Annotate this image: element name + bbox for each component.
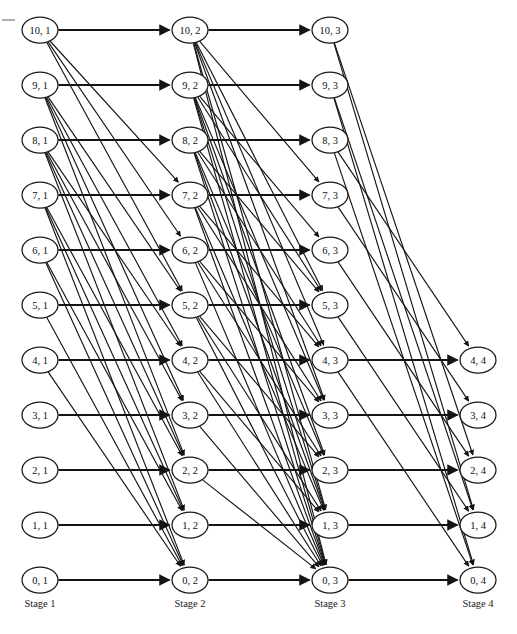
node-label: 0, 2 xyxy=(182,575,198,586)
node-label: 7, 3 xyxy=(322,190,338,201)
edge-s1n8-to-s2n3 xyxy=(47,153,182,401)
node-label: 2, 2 xyxy=(182,465,198,476)
node-s2n5[interactable]: 5, 2 xyxy=(172,292,208,318)
node-label: 7, 2 xyxy=(182,190,198,201)
node-label: 4, 1 xyxy=(32,355,48,366)
edge-s2n6-to-s3n3 xyxy=(200,261,319,401)
node-s1n10[interactable]: 10, 1 xyxy=(22,17,58,43)
node-label: 3, 2 xyxy=(182,410,198,421)
edge-s2n4-to-s3n1 xyxy=(200,371,319,511)
node-s3n10[interactable]: 10, 3 xyxy=(312,17,348,43)
node-s2n9[interactable]: 9, 2 xyxy=(172,72,208,98)
edge-s1n6-to-s2n1 xyxy=(47,263,182,511)
node-s3n1[interactable]: 1, 3 xyxy=(312,512,348,538)
node-s1n1[interactable]: 1, 1 xyxy=(22,512,58,538)
node-s1n9[interactable]: 9, 1 xyxy=(22,72,58,98)
node-s1n3[interactable]: 3, 1 xyxy=(22,402,58,428)
node-s2n4[interactable]: 4, 2 xyxy=(172,347,208,373)
node-s3n4[interactable]: 4, 3 xyxy=(312,347,348,373)
stage-label-2: Stage 2 xyxy=(174,598,205,609)
stage-label-4: Stage 4 xyxy=(462,598,494,609)
node-label: 5, 2 xyxy=(182,300,198,311)
node-label: 5, 3 xyxy=(322,300,338,311)
node-s3n6[interactable]: 6, 3 xyxy=(312,237,348,263)
edge-s3n10-to-s4n1 xyxy=(334,43,474,510)
edge-s3n8-to-s4n4 xyxy=(338,152,469,346)
node-s3n5[interactable]: 5, 3 xyxy=(312,292,348,318)
node-s1n8[interactable]: 8, 1 xyxy=(22,127,58,153)
node-label: 2, 4 xyxy=(470,465,487,476)
node-label: 5, 1 xyxy=(32,300,48,311)
node-s2n7[interactable]: 7, 2 xyxy=(172,182,208,208)
node-s2n0[interactable]: 0, 2 xyxy=(172,567,208,593)
stage-label-1: Stage 1 xyxy=(24,598,55,609)
node-label: 3, 4 xyxy=(470,410,487,421)
node-label: 1, 4 xyxy=(470,520,487,531)
node-s1n5[interactable]: 5, 1 xyxy=(22,292,58,318)
node-label: 10, 1 xyxy=(30,25,51,36)
node-s2n3[interactable]: 3, 2 xyxy=(172,402,208,428)
node-s3n7[interactable]: 7, 3 xyxy=(312,182,348,208)
node-label: 8, 3 xyxy=(322,135,338,146)
node-label: 4, 4 xyxy=(470,355,487,366)
node-label: 10, 2 xyxy=(180,25,201,36)
node-s4n0[interactable]: 0, 4 xyxy=(460,567,496,593)
edge-s2n3-to-s3n0 xyxy=(200,426,319,566)
node-label: 6, 1 xyxy=(32,245,48,256)
node-label: 6, 3 xyxy=(322,245,338,256)
node-label: 9, 3 xyxy=(322,80,338,91)
node-s1n7[interactable]: 7, 1 xyxy=(22,182,58,208)
node-s3n3[interactable]: 3, 3 xyxy=(312,402,348,428)
node-s4n2[interactable]: 2, 4 xyxy=(460,457,496,483)
stage-label-layer: Stage 1Stage 2Stage 3Stage 4 xyxy=(24,598,494,609)
node-label: 4, 3 xyxy=(322,355,338,366)
node-label: 3, 1 xyxy=(32,410,48,421)
node-s3n0[interactable]: 0, 3 xyxy=(312,567,348,593)
node-label: 9, 2 xyxy=(182,80,198,91)
node-s3n9[interactable]: 9, 3 xyxy=(312,72,348,98)
node-label: 0, 1 xyxy=(32,575,48,586)
edge-s1n7-to-s2n2 xyxy=(47,208,182,456)
node-s2n10[interactable]: 10, 2 xyxy=(172,17,208,43)
edge-s3n7-to-s4n3 xyxy=(338,207,469,401)
node-s3n2[interactable]: 2, 3 xyxy=(312,457,348,483)
trellis-diagram: 10, 19, 18, 17, 16, 15, 14, 13, 12, 11, … xyxy=(0,0,517,634)
node-label: 4, 2 xyxy=(182,355,198,366)
node-label: 10, 3 xyxy=(320,25,341,36)
edge-s2n5-to-s3n2 xyxy=(200,316,319,456)
node-s4n3[interactable]: 3, 4 xyxy=(460,402,496,428)
node-label: 9, 1 xyxy=(32,80,48,91)
node-s1n0[interactable]: 0, 1 xyxy=(22,567,58,593)
node-label: 2, 1 xyxy=(32,465,48,476)
node-s2n8[interactable]: 8, 2 xyxy=(172,127,208,153)
node-s4n4[interactable]: 4, 4 xyxy=(460,347,496,373)
node-s4n1[interactable]: 1, 4 xyxy=(460,512,496,538)
node-s1n4[interactable]: 4, 1 xyxy=(22,347,58,373)
node-s2n1[interactable]: 1, 2 xyxy=(172,512,208,538)
node-s2n6[interactable]: 6, 2 xyxy=(172,237,208,263)
node-label: 8, 2 xyxy=(182,135,198,146)
edge-s1n5-to-s2n0 xyxy=(47,318,182,566)
node-s2n2[interactable]: 2, 2 xyxy=(172,457,208,483)
node-label: 1, 1 xyxy=(32,520,48,531)
node-label: 1, 2 xyxy=(182,520,198,531)
node-label: 1, 3 xyxy=(322,520,338,531)
node-label: 0, 3 xyxy=(322,575,338,586)
node-label: 0, 4 xyxy=(470,575,487,586)
edge-s2n7-to-s3n4 xyxy=(200,206,319,346)
stage-label-3: Stage 3 xyxy=(314,598,345,609)
node-s1n6[interactable]: 6, 1 xyxy=(22,237,58,263)
node-s3n8[interactable]: 8, 3 xyxy=(312,127,348,153)
node-label: 6, 2 xyxy=(182,245,198,256)
edge-s3n9-to-s4n0 xyxy=(334,98,474,565)
node-label: 2, 3 xyxy=(322,465,338,476)
node-label: 8, 1 xyxy=(32,135,48,146)
edge-layer xyxy=(45,30,473,580)
node-label: 7, 1 xyxy=(32,190,48,201)
node-s1n2[interactable]: 2, 1 xyxy=(22,457,58,483)
node-label: 3, 3 xyxy=(322,410,338,421)
